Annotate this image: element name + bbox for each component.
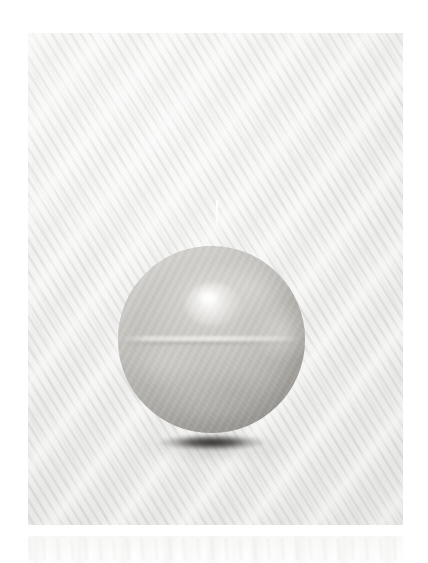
candle-specular-highlight <box>185 283 241 326</box>
lower-textile-band-flecks <box>28 538 403 560</box>
candle-contact-shadow <box>157 434 267 454</box>
photograph-canvas: Matte grey-beige spherical wax candle wi… <box>0 0 428 563</box>
candle-rim-light <box>118 246 305 433</box>
sphere-candle <box>118 246 305 433</box>
image-caption: Matte grey-beige spherical wax candle wi… <box>0 0 1 1</box>
